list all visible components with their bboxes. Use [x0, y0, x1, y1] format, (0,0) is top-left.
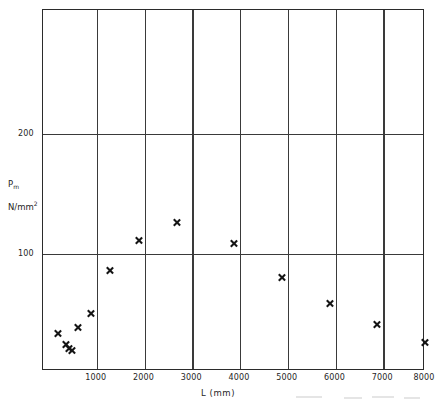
x-axis-title: L (mm)	[0, 388, 436, 398]
gridline-vertical-6000	[336, 10, 337, 369]
gridline-vertical-1000	[97, 10, 98, 369]
ytick-label-200: 200	[18, 129, 34, 138]
gridline-horizontal-200	[43, 134, 423, 135]
data-point-marker	[373, 320, 382, 329]
data-point-marker	[277, 273, 286, 282]
gridline-vertical-7000	[383, 10, 384, 369]
gridline-vertical-3000	[192, 10, 193, 369]
data-point-marker	[86, 309, 95, 318]
y-axis-units-superscript: 2	[34, 200, 38, 207]
xtick-label-3000: 3000	[181, 373, 202, 382]
scan-artifact	[404, 397, 420, 399]
data-point-marker	[172, 218, 181, 227]
data-point-marker	[421, 338, 430, 347]
gridline-vertical-4000	[240, 10, 241, 369]
xtick-label-2000: 2000	[133, 373, 154, 382]
data-point-marker	[325, 299, 334, 308]
data-point-marker	[105, 266, 114, 275]
scan-artifact	[344, 397, 362, 399]
scatter-chart-figure: 1000 2000 3000 4000 5000 6000 7000 8000 …	[0, 0, 436, 406]
data-point-marker	[134, 236, 143, 245]
data-point-marker	[67, 346, 76, 355]
scan-artifact	[296, 396, 322, 398]
xtick-label-5000: 5000	[276, 373, 297, 382]
y-axis-units: N/mm	[8, 202, 34, 212]
xtick-label-8000: 8000	[413, 373, 434, 382]
gridline-vertical-5000	[288, 10, 289, 369]
data-point-marker	[54, 329, 63, 338]
data-point-marker	[64, 344, 73, 353]
xtick-label-4000: 4000	[228, 373, 249, 382]
scan-artifact	[372, 396, 394, 398]
ytick-label-100: 100	[18, 249, 34, 258]
xtick-label-1000: 1000	[85, 373, 106, 382]
xtick-label-6000: 6000	[324, 373, 345, 382]
y-axis-title: Pm N/mm2	[8, 176, 38, 216]
gridline-horizontal-100	[43, 254, 423, 255]
data-point-marker	[230, 239, 239, 248]
xtick-label-7000: 7000	[372, 373, 393, 382]
plot-area	[42, 9, 424, 370]
data-point-marker	[74, 323, 83, 332]
y-axis-symbol-subscript: m	[13, 183, 19, 190]
gridline-vertical-2000	[145, 10, 146, 369]
data-point-marker	[61, 340, 70, 349]
